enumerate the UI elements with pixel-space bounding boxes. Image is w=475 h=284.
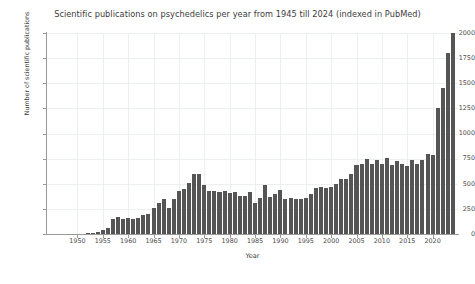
bar bbox=[248, 192, 252, 234]
bar bbox=[390, 165, 394, 234]
bar bbox=[162, 199, 166, 234]
gridline-vertical bbox=[154, 33, 155, 234]
x-tick-mark bbox=[255, 235, 256, 238]
bar bbox=[415, 164, 419, 234]
y-tick-mark bbox=[43, 159, 46, 160]
bar bbox=[400, 164, 404, 234]
y-tick-mark bbox=[43, 108, 46, 109]
bar bbox=[294, 199, 298, 234]
y-tick-label: 250 bbox=[435, 206, 475, 212]
x-tick-mark bbox=[331, 235, 332, 238]
y-tick-label: 2000 bbox=[435, 30, 475, 36]
bar bbox=[157, 203, 161, 234]
gridline-horizontal bbox=[47, 58, 458, 59]
bar bbox=[360, 164, 364, 234]
y-tick-mark bbox=[43, 58, 46, 59]
y-tick-mark bbox=[43, 209, 46, 210]
bar bbox=[431, 155, 435, 234]
bar bbox=[289, 198, 293, 234]
bar bbox=[202, 185, 206, 234]
x-tick-mark bbox=[280, 235, 281, 238]
bar bbox=[197, 174, 201, 234]
y-tick-label: 1500 bbox=[435, 80, 475, 86]
bar bbox=[375, 160, 379, 234]
y-tick-mark bbox=[43, 184, 46, 185]
gridline-horizontal bbox=[47, 83, 458, 84]
x-tick-mark bbox=[154, 235, 155, 238]
bar bbox=[212, 191, 216, 234]
bar bbox=[339, 179, 343, 234]
x-tick-mark bbox=[204, 235, 205, 238]
bar bbox=[324, 188, 328, 234]
y-tick-mark bbox=[43, 234, 46, 235]
bar bbox=[111, 219, 115, 234]
x-tick-mark bbox=[433, 235, 434, 238]
bar bbox=[136, 218, 140, 234]
x-tick-mark bbox=[128, 235, 129, 238]
x-tick-mark bbox=[77, 235, 78, 238]
y-tick-label: 1000 bbox=[435, 130, 475, 136]
gridline-vertical bbox=[128, 33, 129, 234]
bar bbox=[309, 194, 313, 234]
x-tick-mark bbox=[306, 235, 307, 238]
bar bbox=[258, 198, 262, 234]
bar bbox=[192, 174, 196, 234]
bar bbox=[299, 199, 303, 234]
bar bbox=[405, 166, 409, 234]
bar bbox=[223, 191, 227, 234]
bar bbox=[177, 191, 181, 234]
gridline-horizontal bbox=[47, 159, 458, 160]
bar bbox=[243, 196, 247, 234]
gridline-vertical bbox=[77, 33, 78, 234]
bar bbox=[420, 160, 424, 234]
plot-area bbox=[47, 33, 458, 234]
x-tick-mark bbox=[179, 235, 180, 238]
bar bbox=[238, 196, 242, 234]
y-tick-label: 750 bbox=[435, 155, 475, 161]
bar bbox=[365, 159, 369, 234]
bar bbox=[228, 193, 232, 234]
bar bbox=[116, 217, 120, 234]
bar bbox=[380, 164, 384, 234]
y-tick-mark bbox=[43, 33, 46, 34]
y-tick-label: 500 bbox=[435, 181, 475, 187]
bar bbox=[167, 208, 171, 234]
x-axis-line bbox=[46, 234, 459, 235]
bar bbox=[146, 214, 150, 234]
y-tick-label: 1750 bbox=[435, 55, 475, 61]
y-tick-label: 1250 bbox=[435, 105, 475, 111]
x-tick-mark bbox=[230, 235, 231, 238]
bar bbox=[126, 218, 130, 234]
bar bbox=[334, 184, 338, 234]
bar bbox=[370, 164, 374, 234]
x-tick-mark bbox=[357, 235, 358, 238]
bar bbox=[395, 161, 399, 234]
x-tick-mark bbox=[407, 235, 408, 238]
bar bbox=[426, 154, 430, 234]
bar bbox=[172, 199, 176, 234]
gridline-horizontal bbox=[47, 134, 458, 135]
x-tick-mark bbox=[382, 235, 383, 238]
bar bbox=[354, 165, 358, 234]
bar bbox=[182, 189, 186, 234]
bar bbox=[263, 185, 267, 234]
bar bbox=[121, 219, 125, 234]
chart-figure: Scientific publications on psychedelics … bbox=[0, 0, 475, 284]
chart-title: Scientific publications on psychedelics … bbox=[0, 9, 475, 19]
y-axis-line bbox=[46, 32, 47, 235]
bar bbox=[217, 192, 221, 234]
gridline-horizontal bbox=[47, 33, 458, 34]
bar bbox=[385, 158, 389, 234]
bar bbox=[283, 199, 287, 234]
bar bbox=[314, 188, 318, 234]
gridline-horizontal bbox=[47, 108, 458, 109]
bar bbox=[273, 194, 277, 234]
y-tick-label: 0 bbox=[435, 231, 475, 237]
y-axis-label: Number of scientific publications bbox=[23, 0, 30, 144]
bar bbox=[253, 203, 257, 234]
bar bbox=[304, 198, 308, 234]
y-tick-mark bbox=[43, 134, 46, 135]
bar bbox=[268, 197, 272, 234]
bar bbox=[233, 192, 237, 234]
bar bbox=[329, 187, 333, 234]
